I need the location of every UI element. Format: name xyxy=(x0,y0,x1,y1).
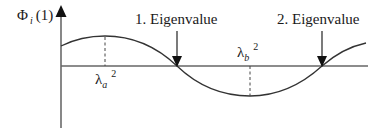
eigenvalue-1-label: 1. Eigenvalue xyxy=(135,12,217,27)
y-axis-label: Φi(1) xyxy=(17,8,53,23)
y-axis-arrow-icon xyxy=(56,5,67,17)
lambda-a-label: λa2 xyxy=(95,72,116,87)
phi-argument: (1) xyxy=(36,7,54,23)
lambda-a-superscript: 2 xyxy=(111,68,116,79)
lambda-b-superscript: 2 xyxy=(253,41,258,52)
phi-subscript: i xyxy=(30,15,33,26)
phi-symbol: Φ xyxy=(17,7,28,23)
lambda-a-subscript: a xyxy=(102,79,107,90)
eigenvalue-2-label: 2. Eigenvalue xyxy=(277,12,359,27)
lambda-b-subscript: b xyxy=(244,52,249,63)
lambda-b-label: λb2 xyxy=(237,45,258,60)
